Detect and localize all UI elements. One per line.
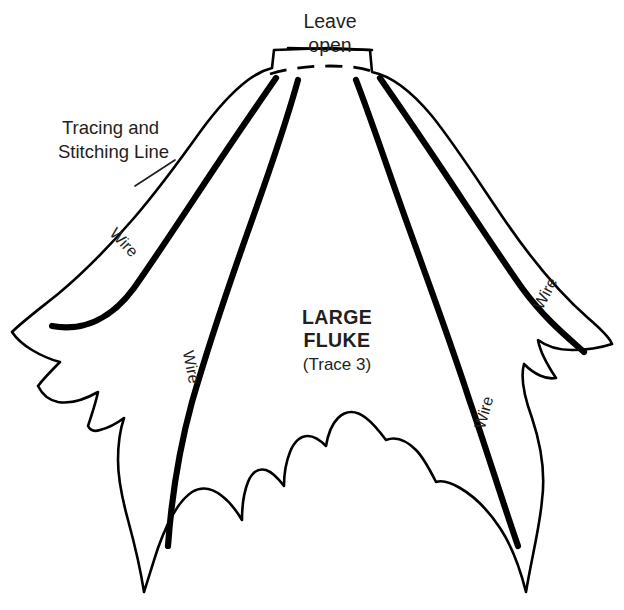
- pattern-title-line1: LARGE: [302, 306, 372, 328]
- pattern-diagram-stage: Leave open Tracing and Stitching Line LA…: [0, 0, 624, 610]
- trace-number-note: (Trace 3): [303, 355, 371, 374]
- leave-open-label-line2: open: [308, 34, 351, 56]
- tracing-stitching-label-line2: Stitching Line: [58, 141, 169, 162]
- large-fluke-pattern-svg: Leave open Tracing and Stitching Line LA…: [0, 0, 624, 610]
- tracing-stitching-label-line1: Tracing and: [62, 117, 159, 138]
- pattern-title-line2: FLUKE: [304, 329, 371, 351]
- leave-open-label-line1: Leave: [303, 10, 356, 32]
